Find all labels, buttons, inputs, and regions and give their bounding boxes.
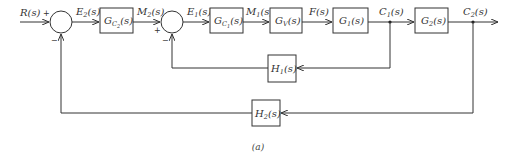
signal-m2: M2(s): [136, 6, 164, 19]
summing-junction-outer: [50, 11, 72, 33]
summing-junction-inner: [161, 11, 183, 33]
sum2-minus-sign: −: [162, 36, 169, 45]
signal-c2: C2(s): [463, 6, 488, 19]
figure-caption: (a): [252, 142, 265, 152]
block-diagram: R(s) + − E2(s) GC2(s) M2(s) + − E1(s) GC…: [0, 0, 523, 157]
signal-m1: M1(s): [245, 6, 273, 19]
signal-e2: E2(s): [75, 6, 100, 19]
sum1-plus-sign: +: [43, 9, 50, 18]
signal-c1: C1(s): [379, 6, 404, 19]
signal-f: F(s): [308, 6, 329, 17]
signal-r: R(s): [19, 7, 41, 18]
sum1-minus-sign: −: [51, 36, 58, 45]
sum2-plus-sign: +: [154, 26, 161, 35]
outer-feedback-to-sum1: [61, 34, 252, 113]
inner-feedback-to-sum2: [172, 34, 268, 68]
signal-e1: E1(s): [186, 6, 211, 19]
